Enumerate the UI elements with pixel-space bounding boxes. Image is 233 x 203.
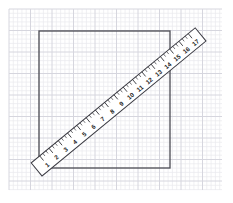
ruler-number-labels: 1234567891011121314151617 bbox=[43, 37, 200, 168]
diagram-canvas: 1234567891011121314151617 bbox=[0, 0, 233, 203]
ruler: 1234567891011121314151617 bbox=[31, 28, 206, 176]
figure-layer: 1234567891011121314151617 bbox=[0, 0, 233, 203]
